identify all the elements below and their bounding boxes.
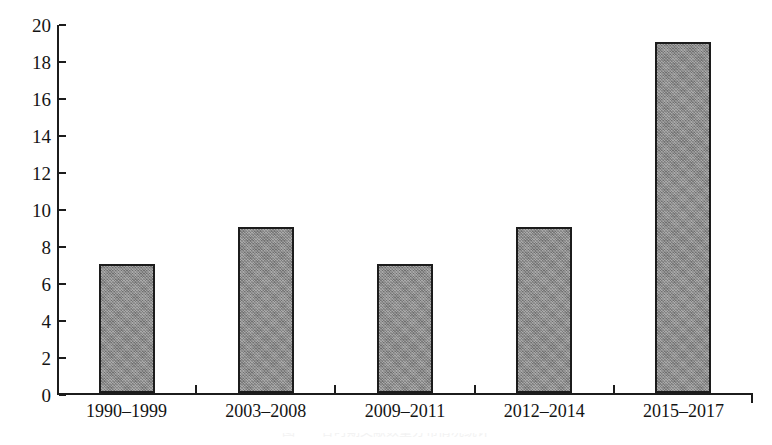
y-tick: 4 [59, 320, 66, 322]
y-tick-label: 12 [32, 164, 51, 183]
bar [238, 227, 294, 394]
x-tick [195, 385, 197, 393]
x-tick [474, 385, 476, 393]
bar [516, 227, 572, 394]
y-tick-label: 14 [32, 127, 51, 146]
bar [377, 264, 433, 394]
y-tick: 8 [59, 246, 66, 248]
x-axis-label: 1990–1999 [86, 402, 167, 420]
y-tick-label: 16 [32, 90, 51, 109]
y-tick: 12 [59, 172, 66, 174]
y-tick: 0 [59, 394, 66, 396]
bar [99, 264, 155, 394]
y-tick-label: 10 [32, 201, 51, 220]
y-tick: 10 [59, 209, 66, 211]
y-tick-label: 6 [42, 275, 52, 294]
y-tick-label: 2 [42, 349, 52, 368]
y-tick: 14 [59, 135, 66, 137]
x-axis-label: 2012–2014 [504, 402, 585, 420]
x-axis-line [57, 393, 753, 395]
bar [655, 42, 711, 394]
y-tick: 2 [59, 357, 66, 359]
x-axis-label: 2009–2011 [365, 402, 445, 420]
y-tick-label: 4 [42, 312, 52, 331]
y-tick: 16 [59, 98, 66, 100]
x-tick [334, 385, 336, 393]
y-tick: 18 [59, 61, 66, 63]
y-tick: 6 [59, 283, 66, 285]
bar-chart: 02468101214161820 1990–19992003–20082009… [0, 0, 772, 445]
x-axis-end-tick [751, 395, 753, 403]
y-tick-label: 0 [42, 386, 52, 405]
x-tick [613, 385, 615, 393]
y-tick: 20 [59, 24, 66, 26]
x-axis-label: 2015–2017 [643, 402, 724, 420]
y-tick-label: 18 [32, 53, 51, 72]
x-axis-label: 2003–2008 [225, 402, 306, 420]
y-tick-label: 20 [32, 16, 51, 35]
y-tick-label: 8 [42, 238, 52, 257]
figure-caption: 图一 各时期文献数量分布情况统计 [282, 433, 490, 437]
plot-area: 02468101214161820 1990–19992003–20082009… [57, 25, 753, 395]
figure-caption-strip: 图一 各时期文献数量分布情况统计 [0, 433, 772, 445]
